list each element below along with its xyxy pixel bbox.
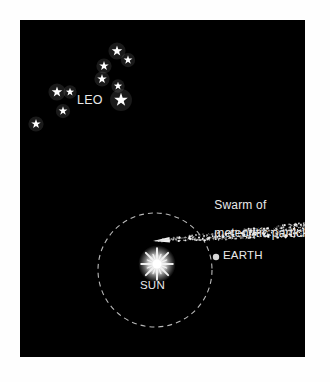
leo-constellation [28, 42, 135, 131]
constellation-label-leo: LEO [77, 93, 103, 108]
sun-symbol [138, 245, 176, 283]
sun-label: SUN [140, 279, 165, 293]
star-chort [111, 79, 124, 92]
night-sky-panel: LEO Swarm of meteoritic particles SUN EA… [20, 20, 305, 357]
swarm-label: Swarm of meteoritic particles [193, 184, 305, 255]
star-adhafera [96, 58, 111, 73]
swarm-label-line1: Swarm of [214, 198, 266, 212]
star-regulus [110, 89, 132, 111]
swarm-label-line2: meteoritic particles [214, 226, 305, 240]
meteor-shower-figure: LEO Swarm of meteoritic particles SUN EA… [0, 0, 330, 382]
star-sigma-leo [56, 104, 70, 118]
earth-label: EARTH [223, 249, 263, 263]
star-theta-leo [48, 83, 65, 100]
star-rasalas [94, 71, 109, 86]
star-denebola [28, 116, 43, 131]
star-iota-leo [63, 85, 76, 98]
star-zosma [121, 53, 135, 67]
swarm-direction-arrow [153, 237, 187, 242]
